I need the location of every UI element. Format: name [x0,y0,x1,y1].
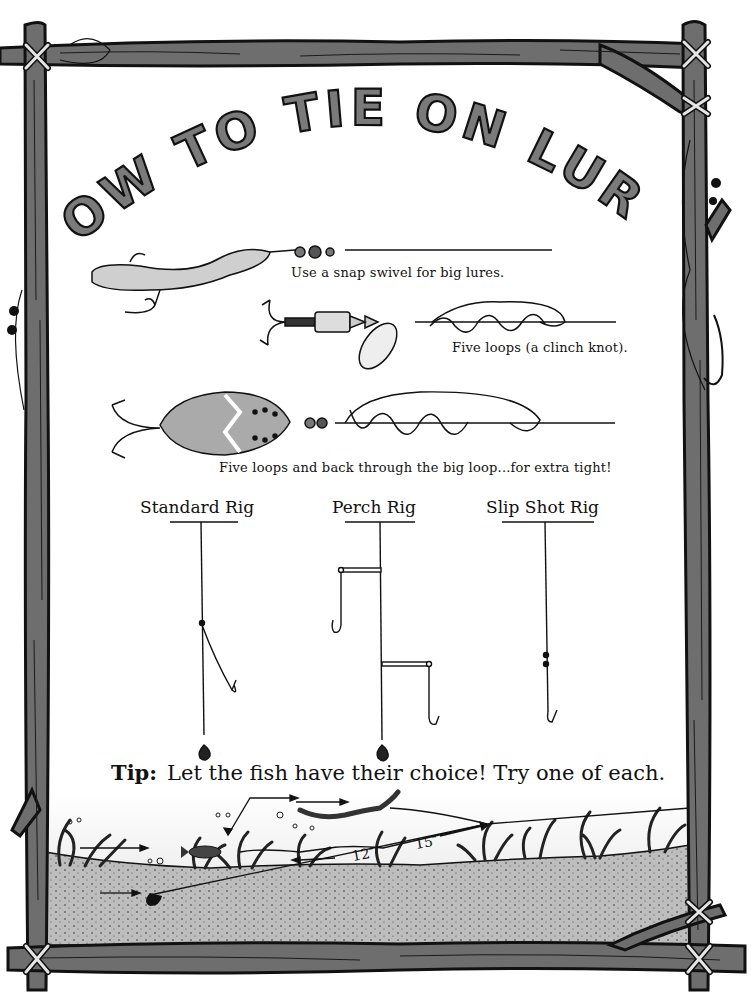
rig-diagrams [0,0,751,1003]
perch-rig-diagram [332,522,439,761]
standard-rig-diagram [170,522,238,760]
tip-line: Tip:Let the fish have their choice! Try … [111,760,665,785]
slip-shot-rig-diagram [502,522,594,722]
tip-label: Tip: [111,760,157,785]
tip-text: Let the fish have their choice! Try one … [167,761,665,785]
